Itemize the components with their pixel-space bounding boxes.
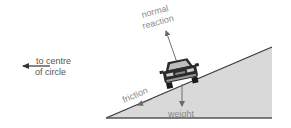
to-centre-label: to centre of circle xyxy=(35,56,71,77)
svg-text:of circle: of circle xyxy=(35,67,66,77)
svg-text:to centre: to centre xyxy=(36,56,71,66)
banked-curve-diagram: normal reaction friction weight to centr… xyxy=(0,0,291,128)
weight-label: weight xyxy=(167,109,195,119)
banked-ramp xyxy=(106,47,272,118)
normal-reaction-label: normal reaction xyxy=(138,2,174,31)
